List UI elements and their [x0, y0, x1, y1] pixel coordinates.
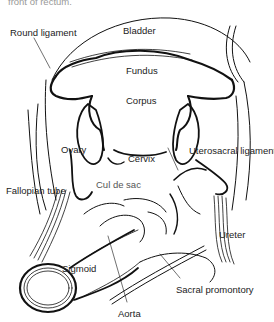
- pelvic-anatomy-diagram: front of rectum.: [0, 0, 274, 322]
- label-aorta: Aorta: [118, 309, 141, 319]
- label-sacral-promontory: Sacral promontory: [176, 285, 254, 295]
- label-bladder: Bladder: [123, 26, 156, 36]
- label-ureter: Ureter: [219, 230, 245, 240]
- label-sigmoid: Sigmoid: [62, 264, 96, 274]
- label-round-ligament: Round ligament: [10, 28, 77, 38]
- label-cul-de-sac: Cul de sac: [96, 180, 141, 190]
- label-uterosacral-ligament: Uterosacral ligament: [189, 146, 274, 156]
- label-cervix: Cervix: [128, 154, 155, 164]
- label-fallopian-tube: Fallopian tube: [6, 186, 66, 196]
- label-fundus: Fundus: [126, 66, 158, 76]
- sacral-promontory: [140, 253, 215, 282]
- label-corpus: Corpus: [126, 96, 157, 106]
- label-ovary: Ovary: [61, 145, 86, 155]
